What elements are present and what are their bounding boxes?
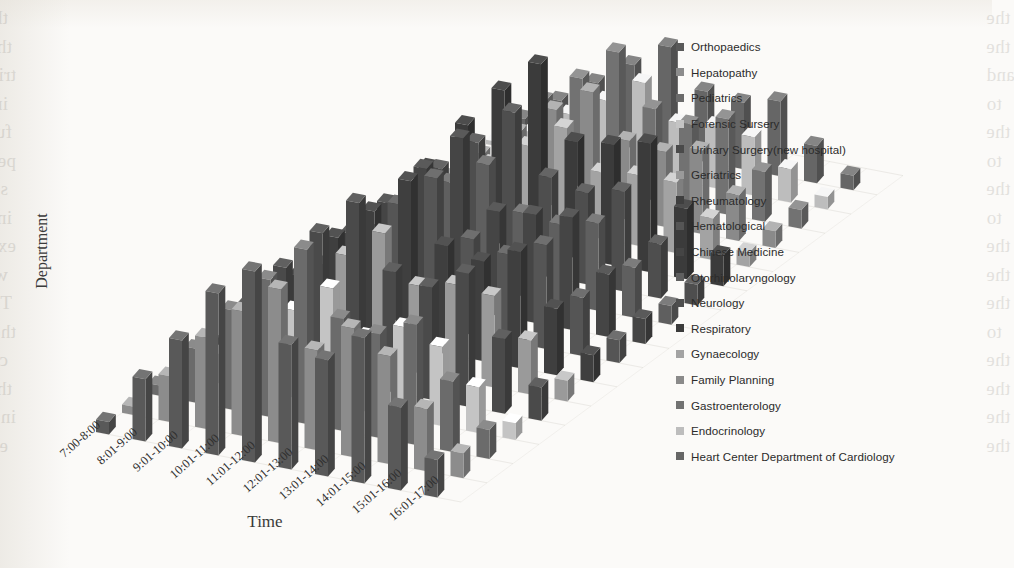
legend-item-label: Heart Center Department of Cardiology	[691, 450, 895, 463]
legend-item[interactable]: Otorhinolaryngology	[676, 264, 988, 290]
legend-swatch-icon	[676, 68, 684, 76]
legend-item[interactable]: Family Planning	[676, 367, 988, 393]
legend-item-label: Geriatrics	[691, 168, 741, 181]
legend-item-label: Forensic Sursery	[691, 117, 779, 130]
legend-swatch-icon	[676, 120, 684, 128]
bar	[206, 283, 226, 455]
legend-swatch-icon	[676, 299, 684, 307]
legend-item-label: Neurology	[691, 296, 744, 309]
legend-swatch-icon	[676, 376, 684, 384]
legend-item[interactable]: Orthopaedics	[676, 34, 988, 60]
legend-item[interactable]: Respiratory	[676, 316, 988, 342]
legend-item-label: Chinese Medicine	[691, 245, 784, 258]
legend-swatch-icon	[676, 324, 684, 332]
bar	[648, 234, 668, 298]
legend-item[interactable]: Chinese Medicine	[676, 239, 988, 265]
legend-item-label: Gastroenterology	[691, 399, 781, 412]
legend-swatch-icon	[676, 171, 684, 179]
legend: OrthopaedicsHepatopathyPediatricsForensi…	[676, 34, 988, 469]
legend-item[interactable]: Forensic Sursery	[676, 111, 988, 137]
legend-swatch-icon	[676, 196, 684, 204]
legend-item-label: Respiratory	[691, 322, 751, 335]
bar	[477, 420, 497, 459]
legend-swatch-icon	[676, 222, 684, 230]
legend-swatch-icon	[676, 145, 684, 153]
legend-swatch-icon	[676, 248, 684, 256]
legend-item-label: Endocrinology	[691, 424, 765, 437]
bar	[440, 371, 460, 452]
legend-item[interactable]: Rheumatology	[676, 188, 988, 214]
legend-item-label: Pediatrics	[691, 91, 742, 104]
bar	[555, 371, 575, 402]
legend-swatch-icon	[676, 273, 684, 281]
bar	[503, 413, 523, 440]
legend-item-label: Hepatopathy	[691, 66, 757, 79]
legend-swatch-icon	[676, 427, 684, 435]
bar	[622, 258, 642, 318]
legend-swatch-icon	[676, 94, 684, 102]
y-axis-title: Department	[33, 191, 51, 311]
bar	[544, 299, 564, 376]
bar	[451, 443, 471, 478]
legend-swatch-icon	[676, 43, 684, 51]
legend-item[interactable]: Gastroenterology	[676, 392, 988, 418]
x-axis-title: Time	[205, 512, 325, 532]
legend-item-label: Rheumatology	[691, 194, 766, 207]
bar	[633, 309, 653, 344]
legend-item-label: Urinary Surgery(new hospital)	[691, 143, 846, 156]
bar	[596, 264, 616, 337]
legend-item[interactable]: Hepatopathy	[676, 60, 988, 86]
bar	[492, 329, 512, 414]
legend-item[interactable]: Endocrinology	[676, 418, 988, 444]
legend-item[interactable]: Hematological	[676, 213, 988, 239]
legend-item[interactable]: Geriatrics	[676, 162, 988, 188]
legend-item[interactable]: Urinary Surgery(new hospital)	[676, 136, 988, 162]
legend-item[interactable]: Gynaecology	[676, 341, 988, 367]
bar	[529, 377, 549, 420]
legend-item-label: Gynaecology	[691, 347, 759, 360]
legend-swatch-icon	[676, 452, 684, 460]
legend-item-label: Family Planning	[691, 373, 774, 386]
bar	[242, 261, 262, 462]
legend-item[interactable]: Pediatrics	[676, 85, 988, 111]
bar	[581, 345, 601, 382]
legend-swatch-icon	[676, 401, 684, 409]
legend-item-label: Otorhinolaryngology	[691, 271, 796, 284]
legend-item-label: Hematological	[691, 219, 765, 232]
bar	[352, 328, 372, 484]
legend-item[interactable]: Neurology	[676, 290, 988, 316]
legend-swatch-icon	[676, 350, 684, 358]
legend-item-label: Orthopaedics	[691, 40, 761, 53]
bar	[607, 330, 627, 363]
legend-item[interactable]: Heart Center Department of Cardiology	[676, 444, 988, 470]
